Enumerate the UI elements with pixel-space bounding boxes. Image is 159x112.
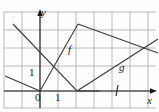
y-axis-label: y: [41, 7, 46, 18]
origin-label: 0: [35, 92, 41, 103]
plot-canvas: [0, 0, 159, 112]
figure-background: [0, 0, 159, 112]
curve-f-label: f: [68, 44, 71, 55]
x-axis-label: x: [147, 95, 152, 106]
y-unit-tick-label: 1: [29, 67, 35, 78]
graph-figure: y x f g 0 1 1: [0, 0, 159, 112]
curve-g-label: g: [119, 62, 125, 73]
x-unit-tick-label: 1: [55, 92, 61, 103]
